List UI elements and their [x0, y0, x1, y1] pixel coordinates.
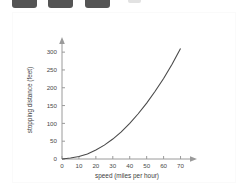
x-tick-label: 10 [75, 162, 82, 169]
y-tick-label: 100 [47, 120, 58, 127]
x-tick-label: 60 [160, 162, 167, 169]
y-axis-arrowhead [59, 37, 65, 44]
thumbnail-item-3[interactable] [85, 0, 110, 8]
x-axis-title: speed (miles per hour) [95, 172, 159, 180]
x-axis-arrowhead [190, 156, 197, 162]
thumbnail-item-1[interactable] [12, 0, 37, 8]
x-tick-label: 70 [177, 162, 184, 169]
y-tick-label: 50 [50, 137, 57, 144]
y-tick-label: 150 [47, 102, 58, 109]
stopping-distance-chart: 050100150200250300 010203040506070 speed… [13, 13, 237, 184]
x-tick-label: 30 [109, 162, 116, 169]
y-tick-label: 300 [47, 48, 58, 55]
y-tick-label: 250 [47, 66, 58, 73]
x-tick-label: 20 [92, 162, 99, 169]
y-tick-label: 0 [54, 155, 58, 162]
x-tick-label: 50 [143, 162, 150, 169]
y-axis-title: stopping distance (feet) [26, 67, 34, 133]
thumbnail-item-2[interactable] [48, 0, 73, 8]
thumbnail-item-4[interactable] [128, 0, 141, 3]
x-tick-label: 0 [60, 162, 64, 169]
cropped-thumbnail-strip [0, 0, 246, 9]
chart-card: 050100150200250300 010203040506070 speed… [12, 12, 236, 183]
x-axis-ticks: 010203040506070 [60, 156, 184, 169]
x-tick-label: 40 [126, 162, 133, 169]
data-series-line [62, 49, 181, 159]
screenshot-root: 050100150200250300 010203040506070 speed… [0, 0, 246, 193]
y-tick-label: 200 [47, 84, 58, 91]
